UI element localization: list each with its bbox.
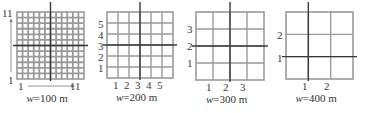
grid-panel-w200 (103, 2, 177, 80)
caption-variable: w (296, 92, 303, 104)
x-tick-label: 2 (124, 80, 130, 91)
panel-caption: w=100 m (27, 92, 68, 104)
y-tick-label: 11 (2, 8, 13, 19)
panel-caption: w=400 m (296, 92, 337, 104)
x-tick-label: 1 (206, 82, 212, 93)
caption-variable: w (27, 92, 34, 104)
panel-caption: w=300 m (206, 93, 247, 105)
y-tick-label: 2 (277, 30, 283, 41)
y-tick-label: 1 (187, 58, 193, 69)
grid-panel-w400 (282, 2, 357, 81)
y-tick-label: 1 (277, 53, 283, 64)
x-tick-label: 4 (146, 80, 152, 91)
grid-border (286, 12, 353, 79)
x-tick-label: 3 (135, 80, 141, 91)
x-tick-label: 11 (70, 81, 81, 92)
x-tick-label: 1 (113, 80, 119, 91)
grid-panel-w100 (10, 2, 89, 88)
caption-value: =100 m (34, 92, 68, 104)
y-tick-label: 1 (8, 75, 14, 86)
x-tick-label: 2 (223, 82, 229, 93)
panel-caption: w=200 m (116, 91, 157, 103)
y-tick-label: 1 (98, 63, 104, 74)
caption-value: =300 m (213, 93, 247, 105)
x-tick-label: 3 (240, 82, 246, 93)
caption-value: =400 m (303, 92, 337, 104)
y-tick-label: 3 (187, 24, 193, 35)
x-tick-label: 5 (157, 80, 163, 91)
x-tick-label: 1 (302, 81, 308, 92)
y-tick-label: 2 (187, 41, 193, 52)
x-tick-label: 1 (18, 81, 24, 92)
x-tick-label: 2 (324, 81, 330, 92)
grid-panel-w300 (192, 2, 268, 82)
caption-value: =200 m (123, 91, 157, 103)
